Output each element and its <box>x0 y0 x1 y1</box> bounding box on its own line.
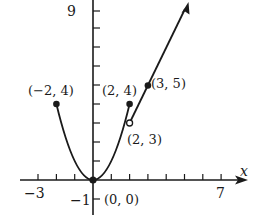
y-tick-label-neg1: −1 <box>70 192 91 208</box>
point-origin <box>89 176 96 183</box>
x-tick-label-neg3: −3 <box>24 185 45 201</box>
label-point-3-5: (3, 5) <box>151 76 186 91</box>
point-neg2-4 <box>53 101 60 108</box>
x-axis-label: x <box>240 163 248 179</box>
y-tick-label-9: 9 <box>67 3 76 19</box>
y-axis-ticks <box>93 11 100 199</box>
label-point-2-3: (2, 3) <box>127 132 162 147</box>
point-2-3-open <box>127 120 133 126</box>
x-axis-ticks <box>38 174 221 180</box>
label-point-2-4: (2, 4) <box>102 83 137 98</box>
label-point-neg2-4: (−2, 4) <box>28 83 74 98</box>
x-axis <box>20 174 248 185</box>
x-tick-label-7: 7 <box>216 185 225 201</box>
ray-line <box>130 9 185 123</box>
label-point-origin: (0, 0) <box>104 192 139 207</box>
piecewise-function-graph: 9 −1 −3 7 x (−2, 4) (2, 4) (3, 5) (2, 3)… <box>0 0 254 221</box>
point-2-4 <box>126 101 133 108</box>
